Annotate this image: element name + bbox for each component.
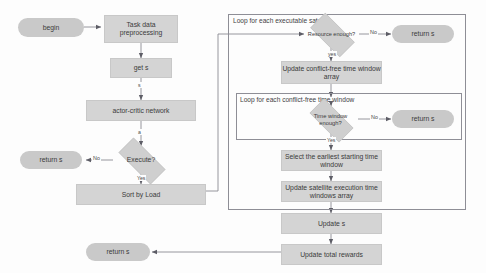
edge-label-resource-no: No [369, 29, 378, 35]
node-get-s-label: get s [134, 64, 149, 72]
edge-label-resource-yes: yes [327, 51, 337, 57]
node-update-total-rewards-label: Update total rewards [300, 251, 363, 259]
node-return-s-execute-no[interactable]: return s [20, 151, 82, 169]
edge-label-time-window-yes: Yes [326, 137, 336, 143]
node-time-window-enough-decision-label: Time window enough? [309, 113, 353, 126]
node-sort-by-load[interactable]: Sort by Load [76, 184, 206, 205]
edge-label-state-s: s [137, 82, 142, 88]
node-execute-decision-label: Execute? [127, 156, 155, 163]
node-return-s-final-label: return s [106, 248, 129, 256]
node-return-s-resource-no[interactable]: return s [392, 25, 454, 43]
edge-label-execute-yes: Yes [136, 175, 146, 181]
edge-sort-by-load-to-outer-loop [206, 34, 218, 191]
edge-label-time-window-no: No [370, 114, 379, 120]
node-task-data-preprocessing-label: Task data preprocessing [105, 21, 177, 36]
node-actor-critic-network-label: actor-critic network [112, 107, 169, 115]
node-select-earliest-starting-time-window-label: Select the earliest starting time window [282, 153, 381, 168]
node-execute-decision[interactable]: Execute? [110, 146, 172, 174]
flowchart-canvas: Loop for each executable satellite Loop … [0, 0, 486, 273]
node-update-s[interactable]: Update s [281, 213, 382, 234]
node-update-satellite-execution-time-windows-array-label: Update satellite execution time windows … [282, 184, 381, 199]
node-resource-enough-decision[interactable]: Resource enough? [303, 20, 360, 48]
node-task-data-preprocessing[interactable]: Task data preprocessing [104, 15, 178, 43]
node-update-satellite-execution-time-windows-array[interactable]: Update satellite execution time windows … [281, 181, 382, 202]
node-return-s-time-window-no-label: return s [411, 115, 434, 123]
node-return-s-time-window-no[interactable]: return s [392, 110, 454, 128]
node-time-window-enough-decision[interactable]: Time window enough? [302, 106, 359, 133]
node-begin[interactable]: begin [18, 18, 84, 37]
node-actor-critic-network[interactable]: actor-critic network [86, 100, 196, 121]
node-get-s[interactable]: get s [110, 58, 172, 78]
node-sort-by-load-label: Sort by Load [122, 191, 161, 199]
inner-loop-label: Loop for each conflict-free time window [240, 96, 354, 103]
node-return-s-resource-no-label: return s [411, 30, 434, 38]
edge-label-action-a: a [137, 129, 142, 135]
node-select-earliest-starting-time-window[interactable]: Select the earliest starting time window [281, 150, 382, 171]
node-return-s-execute-no-label: return s [39, 156, 62, 164]
node-update-conflict-free-time-window-array-label: Update conflict-free time window array [282, 65, 381, 80]
node-update-conflict-free-time-window-array[interactable]: Update conflict-free time window array [281, 61, 382, 84]
edge-label-execute-no: No [92, 155, 101, 161]
node-begin-label: begin [43, 24, 60, 32]
node-update-s-label: Update s [318, 220, 345, 228]
node-return-s-final[interactable]: return s [86, 243, 150, 261]
node-resource-enough-decision-label: Resource enough? [308, 31, 355, 37]
node-update-total-rewards[interactable]: Update total rewards [281, 244, 382, 265]
